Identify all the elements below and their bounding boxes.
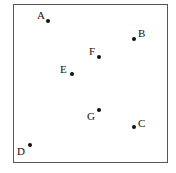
- point-label-b: B: [138, 28, 145, 39]
- point-label-a: A: [37, 10, 45, 21]
- point-g: [97, 108, 101, 112]
- point-label-e: E: [60, 64, 67, 75]
- point-a: [46, 19, 50, 23]
- point-e: [70, 72, 74, 76]
- point-c: [132, 125, 136, 129]
- point-label-f: F: [89, 46, 95, 57]
- point-label-c: C: [138, 118, 145, 129]
- point-f: [97, 55, 101, 59]
- point-b: [132, 37, 136, 41]
- point-label-g: G: [87, 111, 95, 122]
- point-d: [28, 143, 32, 147]
- point-label-d: D: [17, 146, 25, 157]
